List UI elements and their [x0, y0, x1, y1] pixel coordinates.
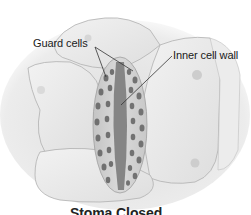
stomata-diagram: Guard cells Inner cell wall Stoma Closed: [0, 0, 251, 215]
diagram-illustration: [0, 0, 251, 215]
nucleus: [192, 70, 202, 80]
nucleus: [37, 86, 45, 94]
nucleus: [191, 159, 200, 168]
inner-cell-wall-label: Inner cell wall: [173, 49, 238, 61]
guard-cells-label: Guard cells: [33, 37, 88, 49]
caption-label: Stoma Closed: [70, 205, 162, 215]
